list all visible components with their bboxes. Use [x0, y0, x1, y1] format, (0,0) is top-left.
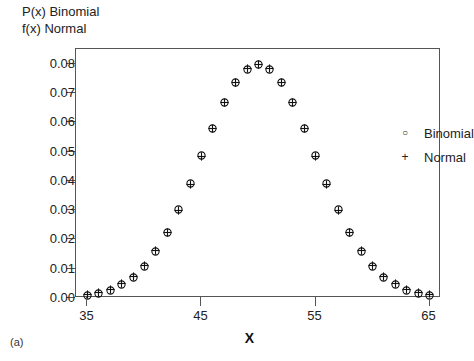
data-point-normal — [117, 279, 126, 288]
data-point-normal — [414, 288, 423, 297]
data-point-normal — [94, 288, 103, 297]
y-tick-label: 0.02 — [31, 231, 75, 246]
x-axis-label: X — [0, 330, 457, 346]
data-point-normal — [254, 60, 263, 69]
plus-icon: + — [394, 151, 416, 163]
y-tick-label: 0.08 — [31, 55, 75, 70]
x-tick-label: 35 — [79, 308, 93, 323]
circle-icon: ○ — [394, 128, 416, 138]
subfigure-label: (a) — [10, 336, 23, 348]
data-point-normal — [402, 285, 411, 294]
plot-area: ○ Binomial + Normal — [75, 48, 440, 297]
data-point-normal — [379, 272, 388, 281]
data-point-normal — [345, 228, 354, 237]
data-point-normal — [220, 98, 229, 107]
y-tick-label: 0.07 — [31, 84, 75, 99]
data-point-normal — [197, 152, 206, 161]
y-tick-label: 0.04 — [31, 172, 75, 187]
data-point-normal — [368, 261, 377, 270]
legend-label-normal: Normal — [424, 150, 466, 165]
data-point-normal — [83, 290, 92, 299]
data-point-normal — [334, 206, 343, 215]
x-tick-mark — [86, 297, 87, 306]
data-point-normal — [151, 246, 160, 255]
data-point-normal — [265, 64, 274, 73]
data-point-normal — [140, 261, 149, 270]
data-point-normal — [208, 124, 217, 133]
data-point-normal — [391, 279, 400, 288]
x-tick-mark — [429, 297, 430, 306]
x-tick-mark — [200, 297, 201, 306]
x-axis-label-text: X — [245, 330, 254, 346]
x-tick-mark — [315, 297, 316, 306]
data-point-normal — [129, 272, 138, 281]
data-point-normal — [174, 206, 183, 215]
data-point-normal — [186, 180, 195, 189]
data-point-normal — [277, 78, 286, 87]
data-point-normal — [106, 285, 115, 294]
data-point-normal — [163, 228, 172, 237]
legend: ○ Binomial + Normal — [394, 121, 474, 169]
data-point-normal — [311, 152, 320, 161]
y-tick-label: 0.05 — [31, 143, 75, 158]
legend-label-binomial: Binomial — [424, 126, 474, 141]
data-point-normal — [425, 290, 434, 299]
data-point-normal — [231, 78, 240, 87]
y-tick-label: 0.01 — [31, 260, 75, 275]
data-point-normal — [243, 64, 252, 73]
x-tick-label: 45 — [193, 308, 207, 323]
x-tick-label: 65 — [421, 308, 435, 323]
y-tick-label: 0.00 — [31, 290, 75, 305]
data-point-normal — [357, 246, 366, 255]
data-point-normal — [288, 98, 297, 107]
data-point-normal — [300, 124, 309, 133]
y-axis-ticks: 0.000.010.020.030.040.050.060.070.08 — [0, 0, 75, 361]
y-tick-label: 0.06 — [31, 114, 75, 129]
y-tick-label: 0.03 — [31, 202, 75, 217]
legend-entry-binomial: ○ Binomial — [394, 121, 474, 145]
legend-entry-normal: + Normal — [394, 145, 474, 169]
data-point-normal — [322, 180, 331, 189]
x-tick-label: 55 — [307, 308, 321, 323]
